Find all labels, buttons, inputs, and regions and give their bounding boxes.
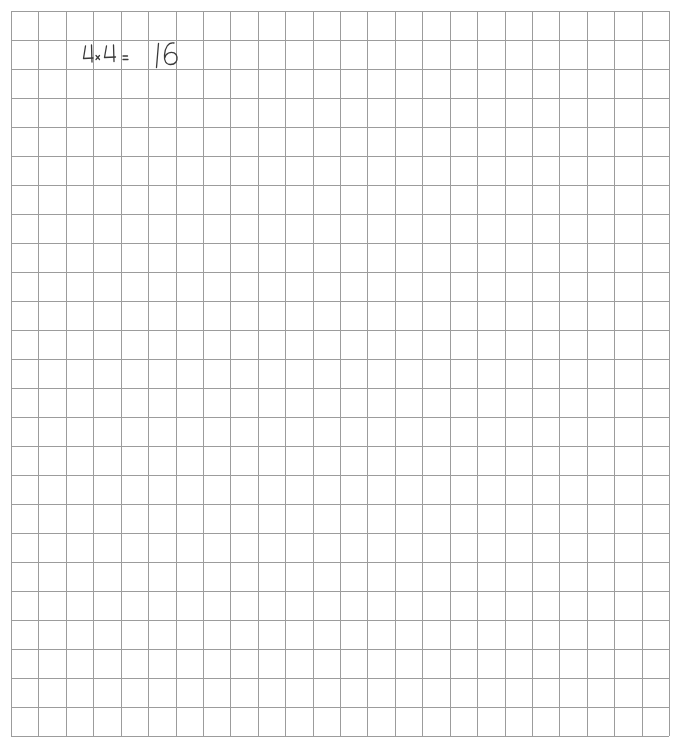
graph-paper-sheet: 4×4= 16 xyxy=(0,0,678,743)
grid-lines xyxy=(0,0,678,743)
